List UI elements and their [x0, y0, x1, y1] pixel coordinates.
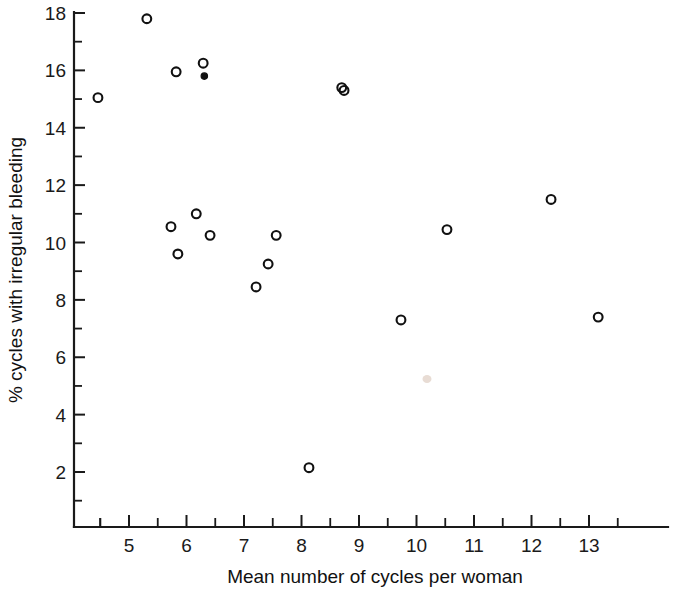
data-point-open	[199, 59, 208, 68]
scatter-plot-figure: 246810121416185678910111213 Mean number …	[0, 0, 676, 593]
y-tick-label: 10	[45, 233, 66, 254]
data-point-open	[264, 260, 273, 269]
data-point-open	[172, 67, 181, 76]
x-tick-label: 8	[296, 535, 307, 556]
data-point-open	[94, 93, 103, 102]
y-tick-label: 8	[55, 290, 66, 311]
x-tick-label: 13	[578, 535, 599, 556]
data-point-filled	[201, 73, 207, 79]
x-tick-label: 6	[181, 535, 192, 556]
x-tick-label: 10	[406, 535, 427, 556]
data-point-open	[594, 313, 603, 322]
data-point-open	[272, 231, 281, 240]
x-tick-label: 9	[354, 535, 365, 556]
y-tick-label: 2	[55, 462, 66, 483]
data-point-open	[167, 222, 176, 231]
y-axis-title: % cycles with irregular bleeding	[5, 137, 26, 403]
y-tick-label: 4	[55, 405, 66, 426]
y-tick-label: 18	[45, 3, 66, 24]
data-points-group	[94, 14, 603, 472]
data-point-open	[305, 463, 314, 472]
data-point-open	[443, 225, 452, 234]
x-axis-title: Mean number of cycles per woman	[227, 566, 523, 587]
y-tick-label: 12	[45, 175, 66, 196]
data-point-open	[142, 14, 151, 23]
y-tick-label: 6	[55, 347, 66, 368]
tick-labels-group: 246810121416185678910111213	[45, 3, 600, 556]
plot-canvas: 246810121416185678910111213 Mean number …	[0, 0, 676, 593]
data-point-open	[547, 195, 556, 204]
y-tick-label: 14	[45, 118, 67, 139]
y-tick-label: 16	[45, 60, 66, 81]
x-tick-label: 12	[521, 535, 542, 556]
data-point-open	[397, 316, 406, 325]
data-point-open	[173, 250, 182, 259]
data-point-open	[206, 231, 215, 240]
paper-smudge	[423, 375, 432, 383]
data-point-open	[252, 283, 261, 292]
data-point-open	[192, 209, 201, 218]
faint-smudge-group	[423, 375, 432, 383]
x-tick-label: 11	[464, 535, 484, 556]
x-tick-label: 7	[239, 535, 250, 556]
x-tick-label: 5	[124, 535, 135, 556]
axes-group	[74, 12, 668, 527]
